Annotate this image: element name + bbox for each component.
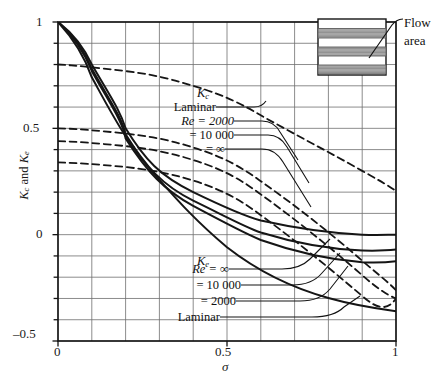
kc-item-re2000: Re = 2000 xyxy=(166,115,234,128)
inset-label-line1: Flow xyxy=(404,16,431,29)
y-title-ke: K xyxy=(17,155,31,163)
ke-item-re10000: = 10 000 xyxy=(166,279,241,292)
ke-item-laminar: Laminar xyxy=(166,311,220,324)
y-title-kc: K xyxy=(17,191,31,199)
chart-figure xyxy=(0,0,443,379)
kc-item-laminar: Laminar xyxy=(167,101,216,114)
y-title-ke-sub: e xyxy=(21,151,31,155)
ke-item-reinfinity: Re = ∞ xyxy=(166,263,229,276)
y-title-and: and xyxy=(17,163,31,187)
kc-group-header: Kc xyxy=(197,87,209,100)
x-axis-title: σ xyxy=(222,360,228,373)
y-tick-0: 0 xyxy=(36,227,43,240)
ke-item-re2000: = 2000 xyxy=(166,295,236,308)
y-tick-0p5: 0.5 xyxy=(23,121,39,134)
y-axis-title: Kc and Ke xyxy=(17,136,32,216)
y-title-kc-sub: c xyxy=(21,188,31,192)
kc-item-re10000: = 10 000 xyxy=(166,129,234,142)
flow-band xyxy=(318,29,386,39)
x-tick-1: 1 xyxy=(392,345,399,358)
y-tick-neg0p5: –0.5 xyxy=(13,327,36,340)
inset-label-line2: area xyxy=(404,34,426,47)
x-tick-0p5: 0.5 xyxy=(215,345,231,358)
x-tick-0: 0 xyxy=(54,345,61,358)
flow-band xyxy=(318,65,386,74)
kc-item-reinfinity: = ∞ xyxy=(166,143,225,156)
y-tick-1: 1 xyxy=(36,15,43,28)
